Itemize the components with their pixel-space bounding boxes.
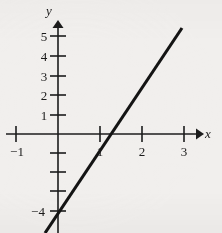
plotted-line [45, 28, 182, 233]
y-tick-label-2: 2 [41, 88, 48, 103]
x-tick-label-1: 1 [97, 144, 104, 159]
y-tick-label-1: 1 [41, 108, 48, 123]
x-axis-arrowhead [196, 129, 204, 140]
y-tick-label-4: 4 [41, 49, 48, 64]
x-tick-label-2: 2 [139, 144, 146, 159]
x-axis-group [6, 129, 204, 140]
y-tick-label-5: 5 [41, 29, 48, 44]
x-tick-label-minus1: −1 [10, 144, 24, 159]
x-axis-label: x [204, 126, 211, 141]
y-axis-label: y [44, 3, 52, 18]
graph-canvas: x y −1 1 2 3 5 4 3 2 1 −4 [0, 0, 222, 233]
y-axis-group [53, 20, 64, 233]
x-tick-label-3: 3 [181, 144, 188, 159]
coordinate-graph-figure: x y −1 1 2 3 5 4 3 2 1 −4 [0, 0, 222, 233]
y-tick-label-3: 3 [41, 69, 48, 84]
y-tick-label-minus4: −4 [31, 204, 45, 219]
y-axis-arrowhead [53, 20, 64, 28]
